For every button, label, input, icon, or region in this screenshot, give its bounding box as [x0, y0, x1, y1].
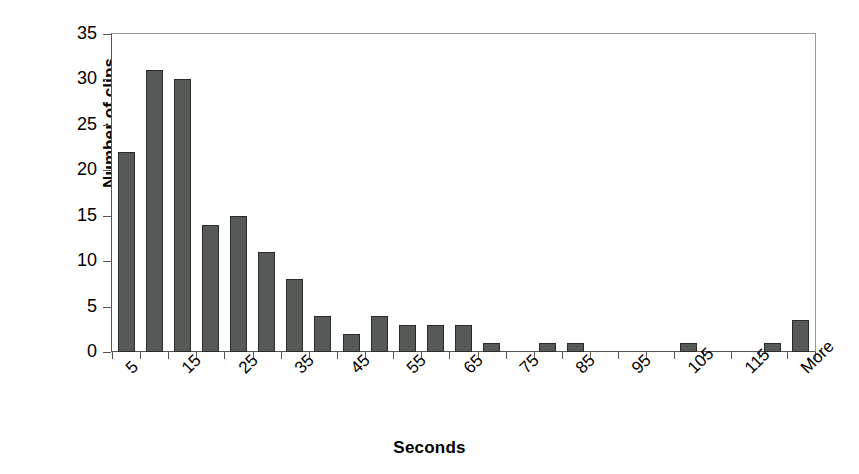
x-axis-tick-mark — [506, 352, 507, 359]
x-axis-tick-label: 95 — [628, 351, 656, 379]
y-axis-tick-label: 25 — [77, 114, 97, 135]
x-axis-tick-label: 75 — [516, 351, 544, 379]
bar — [202, 225, 219, 352]
y-axis-tick-mark — [103, 34, 111, 35]
bar — [174, 79, 191, 352]
x-axis-tick-mark — [787, 352, 788, 359]
y-axis-tick-label: 5 — [87, 296, 97, 317]
bar — [146, 70, 163, 352]
x-axis-tick-mark — [674, 352, 675, 359]
y-axis-tick-label: 0 — [87, 341, 97, 362]
bar — [258, 252, 275, 352]
y-axis-tick-label: 35 — [77, 23, 97, 44]
x-axis-tick-label: 35 — [291, 351, 319, 379]
bar — [230, 216, 247, 352]
y-axis-tick-mark — [103, 307, 111, 308]
bar — [792, 320, 809, 352]
bar — [343, 334, 360, 352]
x-axis-tick-mark — [281, 352, 282, 359]
bar — [483, 343, 500, 352]
bar — [399, 325, 416, 352]
bar — [286, 279, 303, 352]
x-axis-tick-label: 25 — [235, 351, 263, 379]
x-axis-tick-label: 5 — [122, 357, 143, 378]
bar — [118, 152, 135, 352]
bar — [567, 343, 584, 352]
x-axis-tick-label: 15 — [178, 351, 206, 379]
bar — [539, 343, 556, 352]
x-axis-tick-mark — [731, 352, 732, 359]
y-axis-tick-label: 10 — [77, 250, 97, 271]
y-axis-tick-label: 20 — [77, 159, 97, 180]
x-axis-tick-mark — [168, 352, 169, 359]
x-axis-tick-mark — [112, 352, 113, 359]
x-axis-tick-mark — [337, 352, 338, 359]
bar — [455, 325, 472, 352]
x-axis-tick-label: 45 — [347, 351, 375, 379]
y-axis-tick-mark — [103, 170, 111, 171]
y-axis-tick-mark — [103, 261, 111, 262]
y-axis-tick-mark — [103, 125, 111, 126]
x-axis-tick-mark — [224, 352, 225, 359]
bar — [371, 316, 388, 352]
x-axis-tick-mark — [449, 352, 450, 359]
bars-layer — [112, 34, 815, 352]
bar — [680, 343, 697, 352]
x-axis-tick-mark — [140, 352, 141, 359]
y-axis-tick-mark — [103, 216, 111, 217]
histogram-chart: Number of clips 05101520253035 515253545… — [0, 0, 859, 474]
x-axis-tick-mark — [393, 352, 394, 359]
x-axis-title: Seconds — [0, 438, 859, 458]
bar — [314, 316, 331, 352]
x-axis-tick-label: 55 — [403, 351, 431, 379]
x-axis-tick-mark — [618, 352, 619, 359]
y-axis-tick-label: 30 — [77, 68, 97, 89]
bar — [427, 325, 444, 352]
y-axis-tick-label: 15 — [77, 205, 97, 226]
x-axis-tick-label: 65 — [460, 351, 488, 379]
x-axis-tick-label: 85 — [572, 351, 600, 379]
y-axis-tick-mark — [103, 352, 111, 353]
y-axis-tick-mark — [103, 79, 111, 80]
x-axis-tick-mark — [562, 352, 563, 359]
